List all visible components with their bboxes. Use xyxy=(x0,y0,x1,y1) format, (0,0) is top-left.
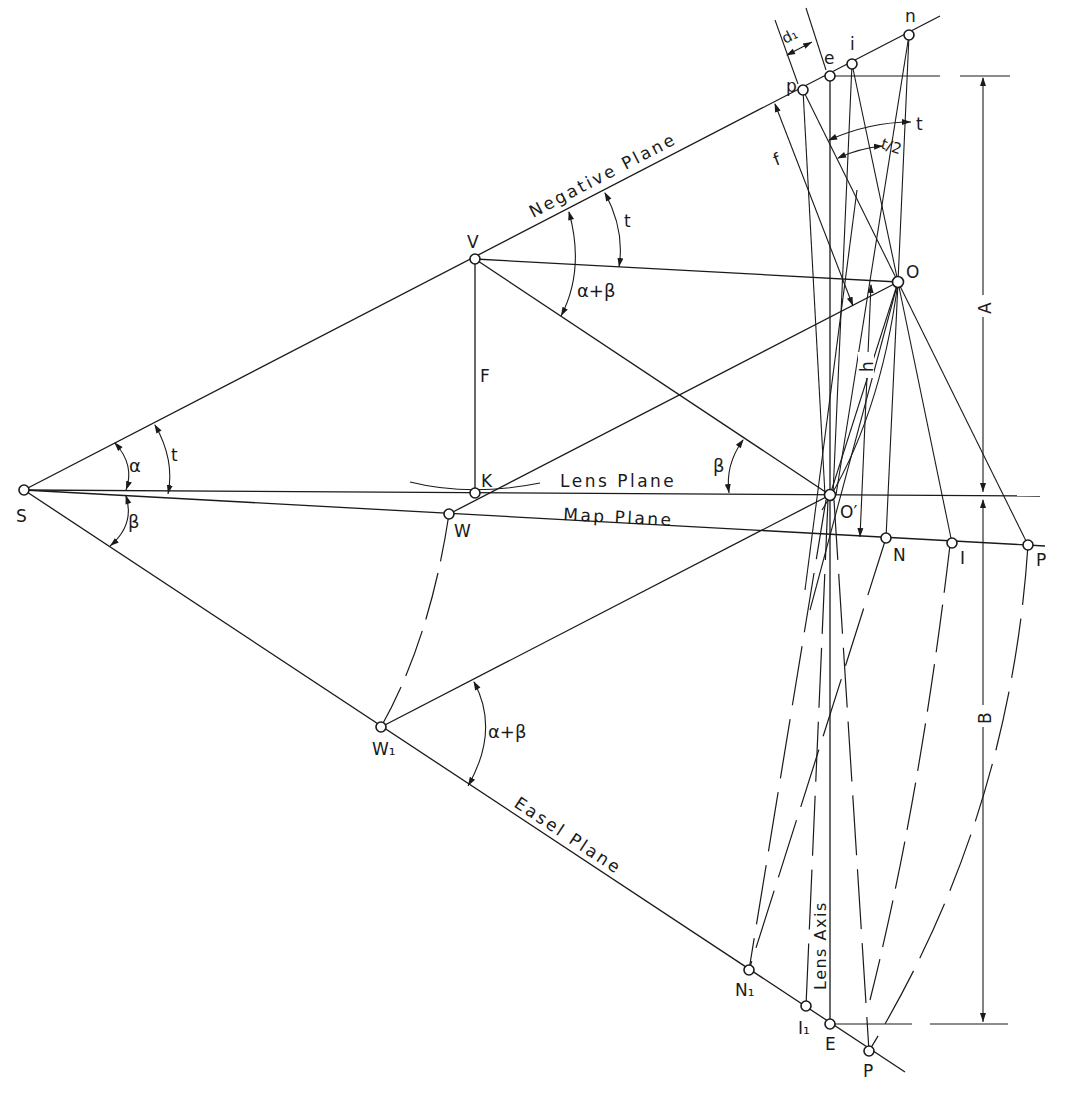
point-N1 xyxy=(744,965,754,975)
label-B: B xyxy=(975,712,995,724)
label-negative-plane: Negative Plane xyxy=(526,129,680,222)
point-N xyxy=(881,533,891,543)
point-i xyxy=(847,59,857,69)
d1-ext-right xyxy=(806,8,826,70)
point-K xyxy=(470,488,480,498)
label-h: h xyxy=(857,361,877,372)
ray-O-I xyxy=(898,282,952,543)
label-P: P xyxy=(1036,550,1046,570)
angle-alpha-plus-beta-arc-W1 xyxy=(468,682,486,786)
angle-beta-arc-O-prime xyxy=(728,440,743,493)
label-E: E xyxy=(825,1034,836,1054)
point-O xyxy=(893,277,904,288)
label-lens-plane: Lens Plane xyxy=(560,471,676,491)
label-W1: W₁ xyxy=(372,739,396,759)
label-t-half: t/2 xyxy=(879,135,904,158)
rectification-diagram: S V K W W₁ O′ O N I P N₁ I₁ E P p e i n … xyxy=(0,0,1075,1095)
point-P1 xyxy=(864,1046,874,1056)
easel-plane-line xyxy=(24,490,905,1072)
label-alpha-plus-beta-W1: α+β xyxy=(488,721,526,742)
point-labels: S V K W W₁ O′ O N I P N₁ I₁ E P p e i n xyxy=(16,6,1046,1081)
point-P xyxy=(1023,540,1033,550)
point-I xyxy=(947,538,957,548)
angle-alpha-arc xyxy=(115,443,129,490)
label-K: K xyxy=(481,471,493,491)
label-easel-plane: Easel Plane xyxy=(511,793,626,879)
label-W: W xyxy=(454,521,471,541)
label-P1: P xyxy=(863,1061,873,1081)
dash-ray-N1 xyxy=(749,500,826,970)
label-map-plane: Map Plane xyxy=(563,504,674,530)
label-S: S xyxy=(16,506,27,526)
point-S xyxy=(19,485,29,495)
label-alpha: α xyxy=(129,455,141,476)
label-F: F xyxy=(480,366,490,386)
label-N: N xyxy=(893,545,906,565)
label-e: e xyxy=(824,48,834,68)
dash-arc-P-P1 xyxy=(869,545,1028,1051)
angle-beta-arc-S xyxy=(110,496,128,546)
points xyxy=(19,30,1033,1056)
ray-p xyxy=(803,90,825,495)
label-I: I xyxy=(960,548,965,568)
point-O-prime xyxy=(825,490,836,501)
angle-t-half-arc-top xyxy=(838,146,883,158)
point-e xyxy=(825,71,835,81)
label-beta-O-prime: β xyxy=(713,455,725,476)
angle-t-arc-S xyxy=(155,425,170,494)
map-plane-line xyxy=(24,490,1045,546)
label-lens-axis: Lens Axis xyxy=(811,901,830,990)
ray-p-O xyxy=(803,90,898,282)
ray-O-P xyxy=(898,282,1028,545)
point-I1 xyxy=(801,1001,811,1011)
label-O: O xyxy=(906,262,919,282)
angle-t-arc-V xyxy=(605,193,620,267)
point-p xyxy=(798,85,808,95)
point-n xyxy=(904,30,914,40)
arc-W-W1 xyxy=(381,514,449,727)
label-A: A xyxy=(975,302,995,314)
dash-arc-I xyxy=(870,545,950,1000)
label-i: i xyxy=(850,34,855,54)
ray-O-O-prime xyxy=(830,282,898,495)
angle-t-arc-top xyxy=(829,122,911,140)
label-V: V xyxy=(467,232,479,252)
label-I1: I₁ xyxy=(798,1018,810,1038)
point-E xyxy=(825,1019,835,1029)
point-W xyxy=(444,509,454,519)
label-alpha-plus-beta-V: α+β xyxy=(577,280,615,301)
label-beta-S: β xyxy=(128,511,140,532)
label-t-S: t xyxy=(171,445,178,465)
line-W1-O-prime xyxy=(381,495,830,727)
label-d1: d₁ xyxy=(779,24,801,47)
point-V xyxy=(470,254,480,264)
label-t-V: t xyxy=(624,211,631,231)
label-p: p xyxy=(786,76,797,96)
point-W1 xyxy=(376,722,386,732)
line-V-O xyxy=(475,259,898,282)
dash-ray-P1 xyxy=(834,500,869,1051)
label-O-prime: O′ xyxy=(840,502,857,522)
line-V-O-prime xyxy=(475,259,830,495)
label-n: n xyxy=(905,6,916,26)
label-t-top: t xyxy=(916,114,923,134)
label-N1: N₁ xyxy=(735,980,755,1000)
